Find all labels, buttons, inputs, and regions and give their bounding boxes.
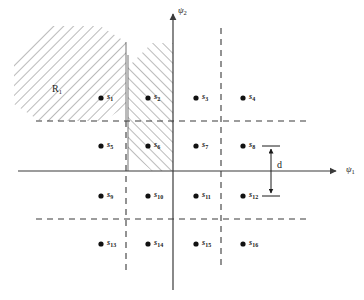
psi2-axis-label: ψ2 xyxy=(178,6,187,17)
constellation-label-s4: s4 xyxy=(249,93,255,102)
constellation-label-s1: s1 xyxy=(107,93,113,102)
constellation-dot-s5 xyxy=(98,143,103,148)
constellation-dot-s9 xyxy=(98,193,103,198)
constellation-dot-s13 xyxy=(98,241,103,246)
constellation-dot-s14 xyxy=(145,241,150,246)
constellation-dot-s8 xyxy=(240,143,245,148)
constellation-dot-s11 xyxy=(193,193,198,198)
constellation-label-s15: s15 xyxy=(202,239,211,248)
constellation-label-s16: s16 xyxy=(249,239,258,248)
constellation-dot-s1 xyxy=(98,95,103,100)
region-r2-fill xyxy=(128,43,173,171)
constellation-label-s9: s9 xyxy=(107,191,113,200)
constellation-label-s13: s13 xyxy=(107,239,116,248)
constellation-label-s7: s7 xyxy=(202,141,208,150)
figure-canvas: s1s2s3s4s5s6s7s8s9s10s11s12s13s14s15s16 … xyxy=(0,0,364,300)
constellation-dot-s16 xyxy=(240,241,245,246)
region-r2 xyxy=(128,43,173,171)
constellation-label-s5: s5 xyxy=(107,141,113,150)
constellation-dot-s6 xyxy=(145,143,150,148)
constellation-label-s14: s14 xyxy=(154,239,163,248)
constellation-label-s10: s10 xyxy=(154,191,163,200)
constellation-label-s12: s12 xyxy=(249,191,258,200)
diagram-svg xyxy=(0,0,364,300)
region-r1 xyxy=(14,14,142,121)
region-r1-label: R1 xyxy=(52,84,62,96)
constellation-dot-s2 xyxy=(145,95,150,100)
psi1-axis-label: ψ1 xyxy=(346,165,355,176)
constellation-label-s11: s11 xyxy=(202,191,211,200)
constellation-dot-s4 xyxy=(240,95,245,100)
constellation-label-s6: s6 xyxy=(154,141,160,150)
constellation-dot-s12 xyxy=(240,193,245,198)
constellation-label-s3: s3 xyxy=(202,93,208,102)
dimension-d-label: d xyxy=(277,160,282,170)
constellation-dot-s7 xyxy=(193,143,198,148)
constellation-dot-s3 xyxy=(193,95,198,100)
constellation-dot-s10 xyxy=(145,193,150,198)
constellation-dot-s15 xyxy=(193,241,198,246)
constellation-label-s2: s2 xyxy=(154,93,160,102)
constellation-label-s8: s8 xyxy=(249,141,255,150)
